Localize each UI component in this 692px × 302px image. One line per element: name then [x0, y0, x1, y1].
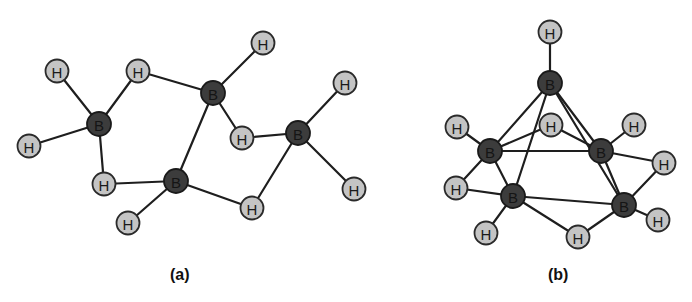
- boron-atom: B: [164, 169, 188, 193]
- bond-b-b: [490, 83, 550, 151]
- hydrogen-atom: H: [623, 114, 646, 137]
- atom-label: H: [659, 156, 670, 173]
- atom-label: H: [258, 36, 269, 53]
- boron-atom: B: [478, 139, 502, 163]
- atom-label: B: [619, 198, 629, 215]
- hydrogen-atom: H: [446, 116, 469, 139]
- atom-label: B: [508, 189, 518, 206]
- bond-h-b: [252, 133, 298, 208]
- atom-label: H: [452, 120, 463, 137]
- atom-label: H: [653, 213, 664, 230]
- boron-atom: B: [589, 139, 613, 163]
- hydrogen-atom: H: [231, 127, 254, 150]
- hydrogen-atom: H: [18, 135, 41, 158]
- atom-label: B: [545, 76, 555, 93]
- atoms-layer: BBBBBHHHHHHHHH: [445, 21, 676, 249]
- hydrogen-atom: H: [539, 21, 562, 44]
- atom-label: H: [573, 230, 584, 247]
- hydrogen-atom: H: [334, 72, 357, 95]
- diagram-canvas: BBBBHHHHHHHHHH BBBBBHHHHHHHHH: [0, 0, 692, 302]
- atom-label: H: [340, 76, 351, 93]
- atom-label: B: [485, 144, 495, 161]
- atom-label: H: [546, 118, 557, 135]
- atom-label: H: [99, 177, 110, 194]
- atom-label: H: [451, 181, 462, 198]
- bond-b-b: [513, 196, 624, 205]
- hydrogen-atom: H: [127, 60, 150, 83]
- atom-label: B: [171, 174, 181, 191]
- panel-b-structure: BBBBBHHHHHHHHH: [445, 21, 676, 249]
- hydrogen-atom: H: [653, 152, 676, 175]
- atom-label: H: [133, 64, 144, 81]
- hydrogen-atom: H: [475, 222, 498, 245]
- panel-a-structure: BBBBHHHHHHHHHH: [18, 32, 366, 235]
- atom-label: H: [481, 226, 492, 243]
- atom-label: H: [349, 182, 360, 199]
- hydrogen-atom: H: [647, 209, 670, 232]
- panel-b-caption: (b): [548, 266, 568, 284]
- hydrogen-atom: H: [540, 114, 563, 137]
- atom-label: B: [596, 144, 606, 161]
- boron-atom: B: [201, 81, 225, 105]
- atom-label: B: [293, 126, 303, 143]
- hydrogen-atom: H: [46, 60, 69, 83]
- atom-label: H: [629, 118, 640, 135]
- atom-label: H: [237, 131, 248, 148]
- bond-b-b: [176, 93, 213, 181]
- atom-label: B: [94, 117, 104, 134]
- boron-atom: B: [538, 71, 562, 95]
- hydrogen-atom: H: [117, 212, 140, 235]
- hydrogen-atom: H: [567, 226, 590, 249]
- atom-label: H: [545, 25, 556, 42]
- atom-label: H: [24, 139, 35, 156]
- hydrogen-atom: H: [343, 178, 366, 201]
- atom-label: H: [247, 201, 258, 218]
- atom-label: H: [52, 64, 63, 81]
- boron-atom: B: [612, 193, 636, 217]
- panel-a-caption: (a): [170, 266, 190, 284]
- boron-atom: B: [87, 112, 111, 136]
- hydrogen-atom: H: [93, 173, 116, 196]
- hydrogen-atom: H: [445, 177, 468, 200]
- hydrogen-atom: H: [241, 197, 264, 220]
- atom-label: B: [208, 86, 218, 103]
- hydrogen-atom: H: [252, 32, 275, 55]
- boron-atom: B: [501, 184, 525, 208]
- atom-label: H: [123, 216, 134, 233]
- boron-atom: B: [286, 121, 310, 145]
